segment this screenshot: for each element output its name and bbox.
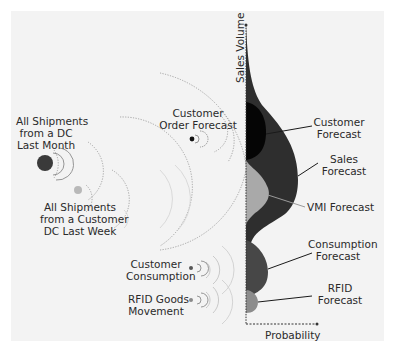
forecast-label-rfid: RFID Forecast [314,282,366,306]
x-axis-arrow-icon [316,323,319,326]
y-axis-label: Sales Volume [234,13,246,83]
forecast-label-sales: Sales Forecast [318,153,370,177]
source-dot-customer-dc-last-week [74,186,82,194]
forecast-label-consumption: Consumption Forecast [308,238,368,262]
source-dot-dc-last-month [37,155,53,171]
source-label-dc-last-month: All Shipments from a DC Last Month [16,115,76,151]
faint-arcs [124,165,190,230]
source-dot-customer-order-forecast [190,137,195,142]
source-dot-rfid-goods-movement [189,298,193,302]
x-axis-label: Probability [265,329,321,341]
source-label-rfid-goods-movement: RFID Goods Movement [128,293,184,317]
forecast-label-customer: Customer Forecast [313,116,365,140]
forecast-label-vmi: VMI Forecast [307,201,374,213]
source-label-customer-consumption: Customer Consumption [126,258,186,282]
source-label-customer-order-forecast: Customer Order Forecast [158,107,238,131]
rfid-forecast-shape [246,290,258,313]
source-label-customer-dc-last-week: All Shipments from a Customer DC Last We… [40,201,120,237]
